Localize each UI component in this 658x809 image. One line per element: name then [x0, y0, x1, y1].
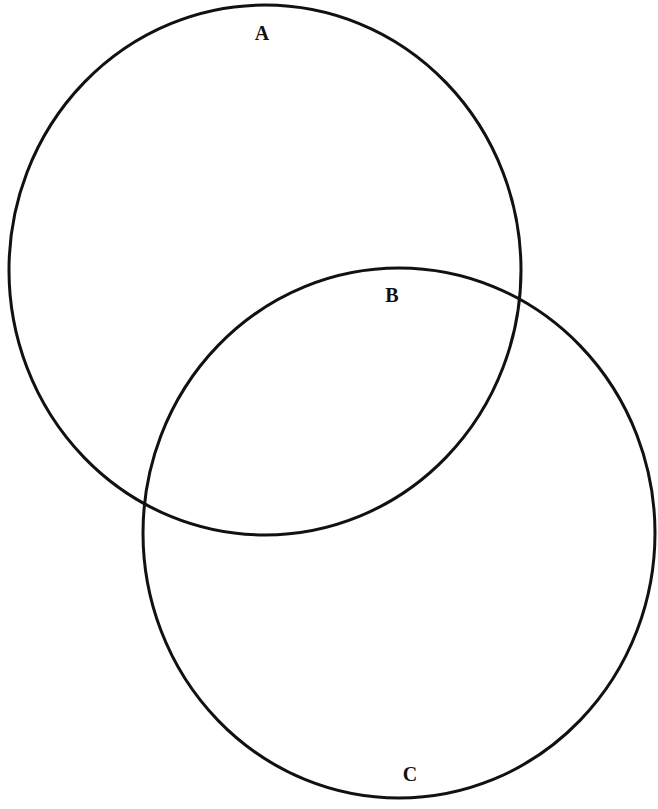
label-b: B	[385, 284, 398, 306]
circle-a	[9, 5, 521, 535]
venn-diagram: A B C	[0, 0, 658, 809]
label-a: A	[255, 22, 270, 44]
label-c: C	[403, 763, 417, 785]
circle-c	[143, 268, 655, 798]
